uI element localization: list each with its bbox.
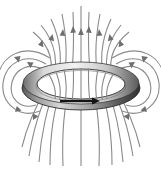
magnetic-field-diagram [0, 0, 161, 172]
field-diagram-svg [0, 0, 161, 172]
arrowhead-inner-left-1 [70, 26, 76, 33]
arrowhead-axis-up [78, 28, 84, 35]
arrowhead-loop-left-3 [15, 106, 22, 112]
arrowhead-loop-left-1 [27, 62, 34, 68]
arrowhead-inner-left-4 [38, 40, 43, 47]
arrowhead-inner-right-1 [86, 26, 92, 33]
arrowhead-inner-right-4 [119, 40, 124, 47]
arrowhead-loop-right-3 [141, 106, 148, 112]
arrowhead-loop-right-1 [129, 62, 136, 68]
